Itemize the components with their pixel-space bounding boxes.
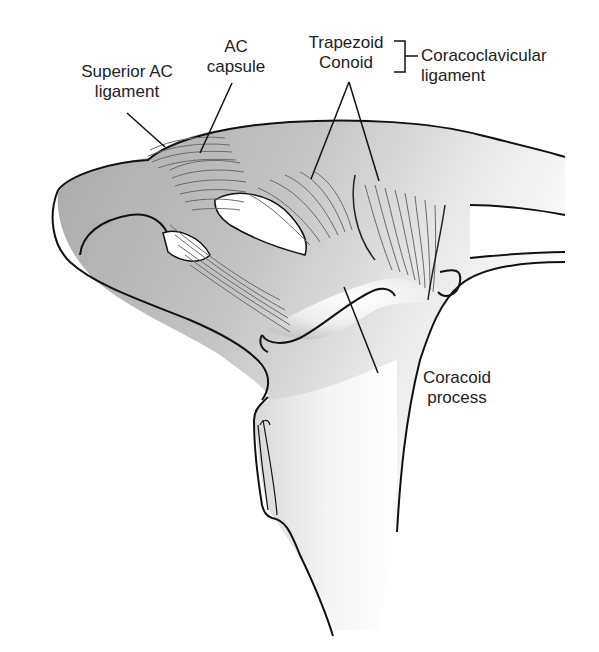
- leader-superior-ac-ligament: [127, 113, 165, 147]
- label-superior-ac-ligament: Superior AC ligament: [64, 62, 190, 102]
- label-line: Coracoid: [412, 368, 502, 388]
- label-line: Superior AC: [64, 62, 190, 82]
- ac-joint-diagram: Superior AC ligament AC capsule Trapezoi…: [0, 0, 599, 652]
- label-trapezoid-conoid: Trapezoid Conoid: [296, 33, 396, 73]
- label-conoid: Conoid: [296, 53, 396, 73]
- label-ac-capsule: AC capsule: [196, 37, 276, 77]
- label-coracoclavicular-ligament: Coracoclavicular ligament: [421, 46, 547, 86]
- glenoid-neck-shape: [254, 360, 397, 636]
- label-line: AC: [196, 37, 276, 57]
- label-line: ligament: [64, 82, 190, 102]
- label-trapezoid: Trapezoid: [296, 33, 396, 53]
- label-line: process: [412, 388, 502, 408]
- label-line: Coracoclavicular: [421, 46, 547, 66]
- label-line: capsule: [196, 57, 276, 77]
- label-line: ligament: [421, 66, 547, 86]
- label-coracoid-process: Coracoid process: [412, 368, 502, 408]
